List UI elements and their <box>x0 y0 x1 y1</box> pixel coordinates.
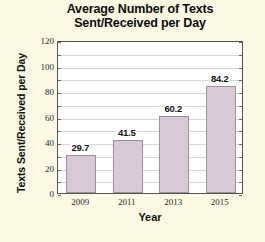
bar-value-label: 29.7 <box>70 142 90 153</box>
y-axis-tick-mark <box>239 68 242 69</box>
y-axis-tick-mark <box>239 55 242 56</box>
y-axis-tick-mark <box>58 131 61 132</box>
bar <box>113 140 143 193</box>
bar-value-label: 84.2 <box>210 73 230 84</box>
y-axis-title: Texts Sent/Received per Day <box>13 40 29 205</box>
gridline <box>58 55 242 56</box>
chart-title-line-1: Average Number of Texts <box>40 2 240 16</box>
y-axis-tick-mark <box>58 55 61 56</box>
x-axis-tick-label: 2015 <box>211 197 229 207</box>
bar <box>66 155 96 193</box>
y-axis-title-text: Texts Sent/Received per Day <box>15 52 27 192</box>
y-axis-tick-mark <box>58 80 61 81</box>
y-axis-tick-mark <box>58 195 61 196</box>
x-axis-title: Year <box>57 211 243 223</box>
y-axis-tick-mark <box>239 170 242 171</box>
chart-title-line-2: Sent/Received per Day <box>40 16 240 30</box>
y-axis-tick-label: 100 <box>28 62 54 72</box>
bar-value-label: 41.5 <box>117 127 137 138</box>
y-axis-tick-mark <box>58 182 61 183</box>
y-axis-tick-mark <box>239 93 242 94</box>
y-axis-tick-mark <box>58 170 61 171</box>
y-axis-tick-mark <box>239 42 242 43</box>
y-axis-tick-mark <box>239 157 242 158</box>
y-axis-tick-mark <box>239 182 242 183</box>
y-axis-tick-mark <box>58 144 61 145</box>
y-axis-tick-label: 40 <box>28 138 54 148</box>
y-axis-tick-mark <box>58 42 61 43</box>
bar <box>159 116 189 193</box>
y-axis-tick-label: 20 <box>28 164 54 174</box>
y-axis-tick-mark <box>239 131 242 132</box>
y-axis-tick-mark <box>58 93 61 94</box>
y-axis-tick-labels: 020406080100120 <box>28 0 54 242</box>
y-axis-tick-label: 0 <box>28 189 54 199</box>
y-axis-tick-mark <box>58 68 61 69</box>
y-axis-tick-mark <box>239 80 242 81</box>
gridline <box>58 68 242 69</box>
bar-value-label: 60.2 <box>163 103 183 114</box>
y-axis-tick-mark <box>239 106 242 107</box>
y-axis-tick-label: 60 <box>28 113 54 123</box>
y-axis-tick-mark <box>58 106 61 107</box>
y-axis-tick-mark <box>239 144 242 145</box>
plot-area <box>57 41 243 194</box>
x-axis-tick-label: 2013 <box>164 197 182 207</box>
chart-title: Average Number of Texts Sent/Received pe… <box>40 2 240 30</box>
bar <box>206 86 236 193</box>
y-axis-tick-mark <box>58 119 61 120</box>
x-axis-tick-label: 2009 <box>71 197 89 207</box>
y-axis-tick-mark <box>58 157 61 158</box>
y-axis-tick-label: 80 <box>28 87 54 97</box>
y-axis-tick-mark <box>239 195 242 196</box>
y-axis-tick-label: 120 <box>28 36 54 46</box>
y-axis-tick-mark <box>239 119 242 120</box>
bar-chart: Average Number of Texts Sent/Received pe… <box>0 0 265 242</box>
x-axis-tick-label: 2011 <box>118 197 136 207</box>
